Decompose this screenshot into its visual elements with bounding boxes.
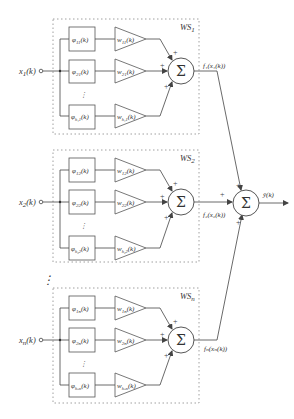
svg-text:+: +	[160, 192, 165, 201]
w-21-label: w21(k)	[117, 68, 135, 77]
phi-h1-label: φh₁1(k)	[71, 113, 89, 122]
xn-input-label: xn(k)	[18, 335, 36, 347]
svg-text:⋮: ⋮	[80, 360, 87, 368]
x2-input-label: x2(k)	[18, 197, 36, 209]
x2-input-node	[39, 200, 43, 204]
row-ellipsis: ⋮	[80, 91, 87, 99]
svg-text:+: +	[236, 181, 241, 190]
svg-text:+: +	[173, 317, 178, 326]
svg-text:φhₙn(k): φhₙn(k)	[71, 382, 90, 391]
svg-text:+: +	[173, 179, 178, 188]
svg-text:φ12(k): φ12(k)	[72, 167, 89, 176]
svg-text:Σ: Σ	[241, 195, 251, 211]
x1-input-label: x1(k)	[18, 66, 36, 78]
w-11-label: w11(k)	[117, 36, 135, 45]
fn-output-label: fₙ(xₙ(k))	[204, 345, 228, 353]
svg-text:w22(k): w22(k)	[117, 199, 135, 208]
phi-21-label: φ21(k)	[72, 68, 89, 77]
svg-text:+: +	[220, 190, 225, 199]
phi-11-label: φ11(k)	[72, 36, 89, 45]
svg-text:w2n(k): w2n(k)	[117, 337, 135, 346]
svg-text:+: +	[164, 213, 169, 222]
svg-text:Σ: Σ	[176, 332, 186, 348]
ws1-title: WS1	[180, 22, 195, 34]
x1-input-node	[39, 69, 43, 73]
svg-text:+: +	[160, 61, 165, 70]
svg-text:+: +	[160, 330, 165, 339]
svg-text:φ2n(k): φ2n(k)	[72, 337, 89, 346]
svg-text:+: +	[173, 48, 178, 57]
svg-text:φh₂2(k): φh₂2(k)	[71, 245, 89, 254]
f2-output-label: f₂(x₂(k))	[203, 211, 226, 219]
svg-text:φ1n(k): φ1n(k)	[72, 305, 89, 314]
ws2-block: WS2 x2(k) φ12(k) φ22(k) ⋮ φh₂2(k) w12(k)…	[18, 150, 232, 262]
svg-text:⋮: ⋮	[80, 222, 87, 230]
svg-text:+: +	[236, 218, 241, 227]
xn-input-node	[39, 338, 43, 342]
svg-text:Σ: Σ	[176, 194, 186, 210]
svg-text:+: +	[164, 351, 169, 360]
blocks-ellipsis: ⋮	[42, 273, 54, 287]
weighted-sum-network-diagram: WS1 x1(k) φ11(k) φ21(k) ⋮ φh₁1(k) w11(k)…	[0, 0, 294, 419]
svg-text:w12(k): w12(k)	[117, 167, 135, 176]
yhat-output-label: ŷ(k)	[262, 191, 275, 199]
svg-text:+: +	[164, 82, 169, 91]
svg-text:φ22(k): φ22(k)	[72, 199, 89, 208]
wsn-title: WSn	[180, 291, 195, 303]
svg-text:w1n(k): w1n(k)	[117, 305, 135, 314]
ws2-title: WS2	[180, 153, 195, 165]
svg-text:Σ: Σ	[176, 63, 186, 79]
f1-output-label: f₁(x₁(k))	[203, 62, 226, 70]
